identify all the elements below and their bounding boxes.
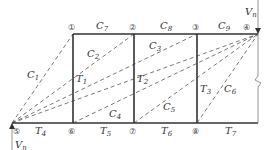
node-3: ③ [192,23,199,32]
truss-diagram: ① ② ③ ④ ⑤ ⑥ ⑦ ⑧ C7 C8 C9 T4 T5 T6 T7 T1 … [0,0,269,150]
load-vn-top: Vn [245,6,257,19]
node-8: ⑧ [192,127,199,136]
label-t5: T5 [100,125,112,138]
diagonal-struts [12,34,258,123]
label-t1: T1 [76,73,87,86]
top-chord-labels: C7 C8 C9 [96,20,231,33]
vertical-labels: T1 T2 T3 [76,73,212,96]
label-c3: C3 [149,40,162,53]
node-2: ② [129,23,136,32]
load-arrow-down-icon [255,28,261,34]
label-t4: T4 [35,125,46,138]
label-c1: C1 [27,69,39,82]
load-vn-bottom: Vn [15,139,27,150]
node-4: ④ [243,23,250,32]
label-c4: C4 [109,108,121,121]
node-7: ⑦ [129,127,136,136]
label-t7: T7 [225,125,237,138]
strut-c1 [12,34,73,123]
label-t6: T6 [161,125,173,138]
label-c5: C5 [163,101,176,114]
strut-fan-a [12,34,258,123]
node-6: ⑥ [68,127,75,136]
label-c9: C9 [218,20,231,33]
node-5: ⑤ [13,127,20,136]
label-t3: T3 [200,83,212,96]
node-1: ① [68,23,75,32]
truss-members [12,34,258,123]
label-c2: C2 [87,48,100,61]
label-c6: C6 [224,83,237,96]
diagonal-labels: C1 C2 C3 C4 C5 C6 [27,40,237,121]
label-c7: C7 [96,20,109,33]
break-mark-icon [255,76,261,87]
label-t2: T2 [137,73,149,86]
strut-c6 [197,34,258,123]
label-c8: C8 [160,20,173,33]
